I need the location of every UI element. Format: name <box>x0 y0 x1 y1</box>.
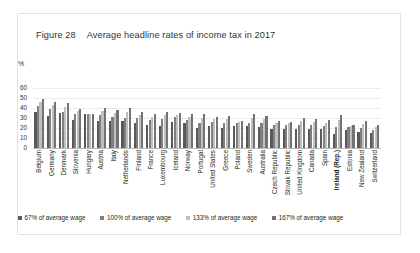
y-tick-60: 60 <box>0 85 27 91</box>
bar <box>377 125 379 148</box>
figure-title: Figure 28Average headline rates of incom… <box>36 30 275 40</box>
category-label-iceland: Iceland <box>170 150 182 208</box>
legend-label: 67% of average wage <box>25 214 86 221</box>
category-label-united-kingdom: United Kingdom <box>294 150 306 208</box>
category-label-text: Italy <box>111 150 117 162</box>
category-label-sweden: Sweden <box>244 150 256 208</box>
bar-group <box>257 88 269 148</box>
bar <box>278 121 280 148</box>
category-label-estonia: Estonia <box>344 150 356 208</box>
figure-title-text: Average headline rates of income tax in … <box>87 30 276 40</box>
category-label-text: Australia <box>260 150 266 175</box>
bar-groups <box>33 88 381 148</box>
category-label-norway: Norway <box>182 150 194 208</box>
y-tick-50: 50 <box>0 95 27 101</box>
category-label-text: Germany <box>49 150 55 176</box>
bar <box>365 121 367 148</box>
y-tick-10: 10 <box>0 135 27 141</box>
bar-group <box>244 88 256 148</box>
bar-group <box>194 88 206 148</box>
category-label-italy: Italy <box>108 150 120 208</box>
category-label-france: France <box>145 150 157 208</box>
legend-item[interactable]: 167% of average wage <box>272 214 343 221</box>
category-label-text: Canada <box>309 150 315 172</box>
bar-group <box>45 88 57 148</box>
legend-swatch-icon <box>100 216 104 220</box>
category-label-ireland-rep: Ireland (Rep.) <box>331 150 343 208</box>
bar-group <box>83 88 95 148</box>
bar-group <box>95 88 107 148</box>
category-label-czech-republic: Czech Republic <box>269 150 281 208</box>
legend-item[interactable]: 133% of average wage <box>186 214 257 221</box>
category-label-hungary: Hungary <box>83 150 95 208</box>
bar <box>315 119 317 148</box>
y-tick-20: 20 <box>0 125 27 131</box>
figure-number: Figure 28 <box>36 30 76 40</box>
bar <box>42 99 44 148</box>
bar <box>203 114 205 148</box>
bar <box>352 125 354 148</box>
category-label-new-zealand: New Zealand <box>356 150 368 208</box>
category-label-text: Spain <box>322 150 328 166</box>
y-tick-0: 0 <box>0 145 27 151</box>
category-label-text: Slovak Republic <box>285 150 291 195</box>
legend-label: 167% of average wage <box>279 214 343 221</box>
bar <box>216 117 218 148</box>
category-label-portugal: Portugal <box>194 150 206 208</box>
legend-swatch-icon <box>186 216 190 220</box>
bar-group <box>145 88 157 148</box>
bar <box>228 116 230 148</box>
bar-group <box>294 88 306 148</box>
y-axis-tick-labels: 0102030405060 <box>0 68 30 152</box>
bar <box>253 114 255 148</box>
bar-group <box>356 88 368 148</box>
bar-group <box>33 88 45 148</box>
bar-group <box>331 88 343 148</box>
bar <box>116 110 118 148</box>
bar <box>290 122 292 148</box>
category-label-greece: Greece <box>219 150 231 208</box>
category-label-poland: Poland <box>232 150 244 208</box>
category-label-text: France <box>148 150 154 170</box>
category-label-text: New Zealand <box>359 150 365 187</box>
bar-group <box>157 88 169 148</box>
bar <box>179 113 181 148</box>
chart-legend: 67% of average wage100% of average wage1… <box>18 214 368 221</box>
bar-group <box>344 88 356 148</box>
category-label-text: Czech Republic <box>272 150 278 194</box>
bar <box>54 102 56 148</box>
category-label-spain: Spain <box>319 150 331 208</box>
category-label-finland: Finland <box>132 150 144 208</box>
legend-swatch-icon <box>18 216 22 220</box>
y-tick-40: 40 <box>0 105 27 111</box>
category-label-switzerland: Switzerland <box>368 150 380 208</box>
category-label-text: Austria <box>98 150 104 170</box>
bar <box>328 120 330 148</box>
category-label-text: Iceland <box>173 150 179 170</box>
bar-group <box>120 88 132 148</box>
bar <box>154 114 156 148</box>
category-label-germany: Germany <box>45 150 57 208</box>
bar <box>67 103 69 148</box>
bar <box>104 108 106 148</box>
legend-label: 133% of average wage <box>193 214 257 221</box>
legend-item[interactable]: 67% of average wage <box>18 214 85 221</box>
category-label-text: Poland <box>235 150 241 170</box>
bar-group <box>108 88 120 148</box>
category-label-text: Denmark <box>61 150 67 176</box>
legend-item[interactable]: 100% of average wage <box>100 214 171 221</box>
bar-group <box>132 88 144 148</box>
category-label-slovak-republic: Slovak Republic <box>281 150 293 208</box>
category-label-text: United Kingdom <box>297 150 303 195</box>
category-label-luxembourg: Luxembourg <box>157 150 169 208</box>
category-label-text: United States <box>210 150 216 188</box>
bar-group <box>58 88 70 148</box>
bar-group <box>170 88 182 148</box>
bar-group <box>319 88 331 148</box>
bar-group <box>306 88 318 148</box>
category-label-netherlands: Netherlands <box>120 150 132 208</box>
bar-group <box>182 88 194 148</box>
category-label-text: Luxembourg <box>160 150 166 185</box>
bar <box>141 112 143 148</box>
category-label-austria: Austria <box>95 150 107 208</box>
